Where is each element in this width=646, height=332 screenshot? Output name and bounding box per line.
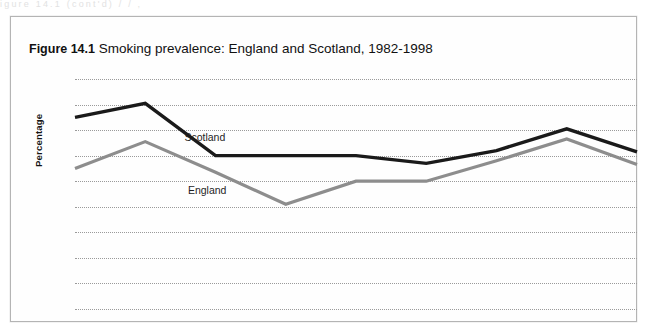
chart-plot-area: 024681012141618 198219841986198819901992…	[75, 79, 637, 309]
scan-artifact-text: igure 14.1 (cont'd) / / ,	[0, 0, 646, 9]
y-axis-title: Percentage	[33, 114, 44, 167]
scotland-series-label: Scotland	[184, 131, 225, 143]
series-lines	[75, 79, 637, 309]
figure-frame: Figure 14.1 Smoking prevalence: England …	[10, 16, 637, 322]
england-line	[75, 139, 637, 204]
figure-title-text: Smoking prevalence: England and Scotland…	[99, 41, 433, 56]
scotland-line	[75, 103, 637, 163]
figure-number: Figure 14.1	[29, 42, 95, 56]
england-series-label: England	[188, 184, 227, 196]
figure-title: Figure 14.1 Smoking prevalence: England …	[29, 41, 433, 57]
gridline	[75, 309, 637, 310]
